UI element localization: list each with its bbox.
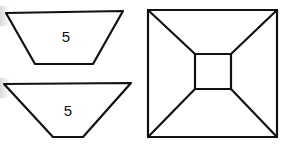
bottom-trapezoid-label: 5	[64, 102, 72, 119]
diagonal-bottom-right	[231, 89, 277, 137]
top-trapezoid-label: 5	[62, 28, 70, 45]
bottom-trapezoid: 5	[4, 83, 131, 137]
diagonal-top-left	[148, 10, 195, 54]
diagonal-top-right	[231, 10, 277, 54]
diagram-canvas: 5 5	[0, 0, 295, 152]
top-trapezoid: 5	[6, 11, 123, 64]
square-frustum-topview	[148, 10, 277, 137]
inner-square	[195, 54, 231, 89]
diagonal-bottom-left	[148, 89, 195, 137]
